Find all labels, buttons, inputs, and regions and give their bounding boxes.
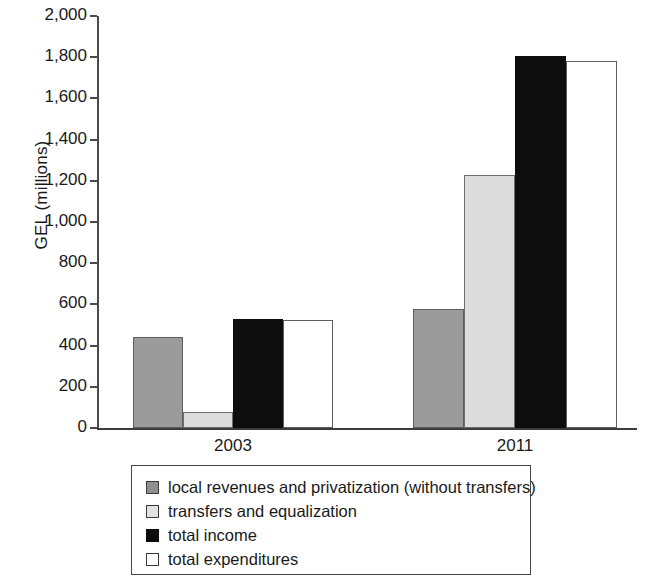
legend-swatch-icon	[146, 505, 159, 518]
y-axis-tick-mark	[90, 56, 97, 58]
y-axis-tick-mark	[90, 386, 97, 388]
y-axis-tick-label: 1,200	[44, 170, 87, 190]
y-axis-tick-label: 800	[59, 252, 87, 272]
legend-swatch-icon	[146, 553, 159, 566]
bar	[133, 337, 183, 428]
y-axis-tick-label: 2,000	[44, 5, 87, 25]
legend-item: local revenues and privatization (withou…	[146, 475, 530, 499]
y-axis-tick-label: 1,600	[44, 87, 87, 107]
y-axis-tick-label: 400	[59, 335, 87, 355]
y-axis-tick-label: 1,000	[44, 211, 87, 231]
y-axis-tick-mark	[90, 180, 97, 182]
y-axis-tick-label: 1,800	[44, 46, 87, 66]
bar	[566, 61, 617, 428]
y-axis-tick-label: 600	[59, 293, 87, 313]
bar-chart-figure: GEL (millions) 2,0001,8001,6001,4001,200…	[0, 0, 650, 578]
y-axis-tick-label: 200	[59, 376, 87, 396]
bar	[464, 175, 515, 428]
y-axis-tick-mark	[90, 221, 97, 223]
y-axis-tick-mark	[90, 15, 97, 17]
y-axis-tick-mark	[90, 262, 97, 264]
bar	[413, 309, 464, 428]
chart-legend: local revenues and privatization (withou…	[131, 465, 531, 575]
bar	[283, 320, 333, 428]
x-axis-group-label: 2003	[133, 436, 333, 456]
legend-item: transfers and equalization	[146, 499, 530, 523]
y-axis-tick-label: 0	[78, 417, 87, 437]
x-axis-line	[97, 428, 637, 430]
legend-label: transfers and equalization	[168, 501, 357, 521]
y-axis-tick-mark	[90, 345, 97, 347]
plot-area: 2,0001,8001,6001,4001,2001,0008006004002…	[97, 10, 637, 430]
bar	[183, 412, 233, 428]
x-axis-group-label: 2011	[413, 436, 617, 456]
legend-item: total income	[146, 523, 530, 547]
y-axis-tick-mark	[90, 97, 97, 99]
legend-swatch-icon	[146, 481, 159, 494]
legend-item: total expenditures	[146, 547, 530, 571]
legend-swatch-icon	[146, 529, 159, 542]
legend-label: total income	[168, 525, 257, 545]
bar	[233, 319, 283, 428]
legend-label: total expenditures	[168, 549, 298, 569]
legend-label: local revenues and privatization (withou…	[168, 477, 536, 497]
y-axis-tick-mark	[90, 427, 97, 429]
y-axis-label: GEL (millions)	[32, 75, 52, 315]
y-axis-tick-mark	[90, 139, 97, 141]
y-axis-line	[97, 16, 99, 428]
bar	[515, 56, 566, 428]
y-axis-tick-mark	[90, 303, 97, 305]
y-axis-tick-label: 1,400	[44, 129, 87, 149]
